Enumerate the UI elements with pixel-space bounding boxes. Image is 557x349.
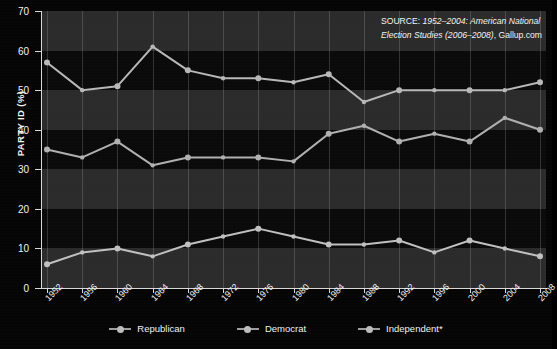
data-point <box>432 250 436 254</box>
data-point <box>503 88 507 92</box>
source-note: SOURCE: 1952–2004: American National Ele… <box>381 14 542 42</box>
data-point <box>432 88 436 92</box>
series-layer <box>41 11 546 288</box>
y-tick-label-70: 70 <box>5 6 29 17</box>
y-tick-label-30: 30 <box>5 164 29 175</box>
data-point <box>291 234 295 238</box>
data-point <box>150 254 154 258</box>
data-point <box>537 127 543 133</box>
source-line-2-tail: , Gallup.com <box>494 30 542 40</box>
series-line <box>47 47 540 102</box>
data-point <box>114 245 120 251</box>
legend-label: Republican <box>137 323 185 334</box>
data-point <box>467 238 473 244</box>
series-independent <box>44 226 543 268</box>
legend-marker-icon <box>237 324 259 333</box>
data-point <box>291 159 295 163</box>
data-point <box>396 238 402 244</box>
y-tick-label-40: 40 <box>5 124 29 135</box>
legend-dot <box>244 326 251 333</box>
data-point <box>80 88 84 92</box>
y-tick-label-0: 0 <box>5 283 29 294</box>
data-point <box>114 83 120 89</box>
y-tick-mark-50 <box>35 90 41 91</box>
y-tick-mark-40 <box>35 130 41 131</box>
source-label: SOURCE: <box>381 16 423 26</box>
data-point <box>396 87 402 93</box>
data-point <box>221 234 225 238</box>
data-point <box>114 139 120 145</box>
data-point <box>185 241 191 247</box>
source-note-line-2: Election Studies (2006–2008), Gallup.com <box>381 28 542 42</box>
data-point <box>326 241 332 247</box>
y-tick-label-10: 10 <box>5 243 29 254</box>
data-point <box>362 100 366 104</box>
legend-dot <box>117 326 124 333</box>
data-point <box>503 116 507 120</box>
data-point <box>396 139 402 145</box>
series-line <box>47 229 540 265</box>
y-tick-label-60: 60 <box>5 45 29 56</box>
y-tick-mark-30 <box>35 169 41 170</box>
legend: RepublicanDemocratIndependent* <box>0 323 552 334</box>
source-note-line-1: SOURCE: 1952–2004: American National <box>381 14 542 28</box>
data-point <box>467 139 473 145</box>
data-point <box>291 80 295 84</box>
data-point <box>537 79 543 85</box>
y-tick-mark-0 <box>35 288 41 289</box>
data-point <box>432 131 436 135</box>
series-democrat <box>44 44 543 104</box>
data-point <box>44 147 50 153</box>
y-axis-line <box>41 11 42 289</box>
data-point <box>221 155 225 159</box>
legend-label: Independent* <box>386 323 443 334</box>
legend-item-independent[interactable]: Independent* <box>358 323 443 334</box>
series-line <box>47 118 540 165</box>
data-point <box>185 154 191 160</box>
data-point <box>537 253 543 259</box>
y-tick-label-50: 50 <box>5 85 29 96</box>
data-point <box>326 71 332 77</box>
series-republican <box>44 116 543 168</box>
data-point <box>362 242 366 246</box>
plot-area <box>41 11 546 288</box>
data-point <box>44 59 50 65</box>
y-tick-mark-10 <box>35 248 41 249</box>
legend-label: Democrat <box>265 323 306 334</box>
legend-item-republican[interactable]: Republican <box>109 323 185 334</box>
legend-marker-icon <box>358 324 380 333</box>
source-line-1-italic: 1952–2004: American National <box>423 16 541 26</box>
y-tick-label-20: 20 <box>5 203 29 214</box>
data-point <box>467 87 473 93</box>
data-point <box>221 76 225 80</box>
data-point <box>362 124 366 128</box>
data-point <box>326 131 332 137</box>
data-point <box>44 261 50 267</box>
y-tick-mark-60 <box>35 51 41 52</box>
data-point <box>255 154 261 160</box>
legend-dot <box>366 326 373 333</box>
data-point <box>150 44 154 48</box>
data-point <box>80 155 84 159</box>
data-point <box>255 226 261 232</box>
legend-marker-icon <box>109 324 131 333</box>
y-tick-mark-20 <box>35 209 41 210</box>
data-point <box>503 246 507 250</box>
source-line-2-italic: Election Studies (2006–2008) <box>381 30 494 40</box>
data-point <box>255 75 261 81</box>
data-point <box>80 250 84 254</box>
legend-item-democrat[interactable]: Democrat <box>237 323 306 334</box>
data-point <box>150 163 154 167</box>
data-point <box>185 67 191 73</box>
y-tick-mark-70 <box>35 11 41 12</box>
